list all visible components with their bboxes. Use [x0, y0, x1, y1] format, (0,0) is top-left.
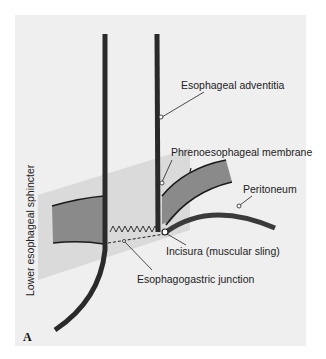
label-peritoneum: Peritoneum	[243, 183, 297, 195]
panel-letter: A	[23, 330, 32, 345]
anatomy-diagram	[0, 0, 326, 359]
label-phrenoesophageal-membrane: Phrenoesophageal membrane	[171, 146, 312, 158]
label-incisura: Incisura (muscular sling)	[166, 245, 280, 257]
label-esophagogastric-junction: Esophagogastric junction	[137, 273, 254, 285]
label-esophageal-adventitia: Esophageal adventitia	[181, 79, 284, 91]
esophageal-wall-right	[157, 34, 158, 232]
label-lower-esophageal-sphincter: Lower esophageal sphincter	[24, 165, 36, 296]
